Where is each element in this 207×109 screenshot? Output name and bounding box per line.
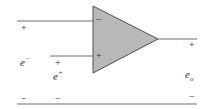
e-minus-sup: − (25, 55, 30, 63)
output-plus-sign: + (189, 40, 195, 50)
e-plus-sup: + (58, 69, 63, 77)
e-out-sub: o (190, 75, 194, 83)
op-amp-diagram: − + + e− + e+ − − + eo − (0, 0, 207, 109)
output-minus-sign: − (189, 92, 195, 102)
left-bottom-minus-sign: − (21, 94, 27, 104)
op-amp-triangle (93, 6, 158, 73)
left-top-plus-sign: + (21, 23, 27, 33)
e-plus-label: e+ (53, 70, 63, 82)
mid-plus-sign: + (55, 58, 61, 68)
e-minus-label: e− (20, 56, 30, 68)
schematic-svg (0, 0, 207, 109)
inverting-input-sign: − (96, 15, 102, 25)
noninverting-input-sign: + (96, 51, 102, 61)
mid-bottom-minus-sign: − (55, 94, 61, 104)
e-out-label: eo (185, 69, 193, 83)
